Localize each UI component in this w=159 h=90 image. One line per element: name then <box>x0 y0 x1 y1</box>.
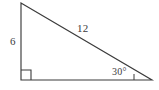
right-angle-marker <box>21 70 31 80</box>
triangle-outline <box>21 3 152 80</box>
side-label-hypotenuse: 12 <box>77 23 88 34</box>
angle-label-30-degrees: 30° <box>112 66 127 77</box>
triangle-graphic <box>0 0 159 90</box>
right-triangle-figure: 6 12 30° <box>0 0 159 90</box>
side-label-vertical-leg: 6 <box>10 36 16 47</box>
